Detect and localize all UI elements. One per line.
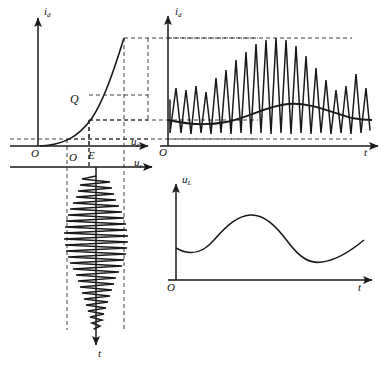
current-x-axis-label: t: [364, 147, 367, 158]
output-x-axis-label: t: [358, 282, 361, 293]
current-origin-label: O: [159, 147, 167, 158]
output-origin-label: O: [167, 282, 175, 293]
input-time-axis-label: t: [98, 348, 101, 359]
transfer-projection-lines: [10, 38, 258, 330]
output-y-axis-label: uL: [182, 174, 191, 185]
transfer-y-axis-label: id: [44, 6, 51, 17]
output-axes: [168, 184, 372, 280]
current-y-axis-label: id: [175, 6, 182, 17]
quiescent-point-label: Q: [70, 93, 79, 105]
input-am-waveform: [64, 176, 128, 329]
transfer-second-origin-label: O: [69, 152, 77, 163]
output-waveform: [176, 215, 364, 262]
transfer-origin-label: O: [31, 148, 39, 159]
transfer-x-axis-label-lower: uc: [134, 157, 143, 168]
transfer-bias-label: E: [88, 150, 95, 161]
figure-vector-layer: [0, 0, 390, 368]
transfer-curve: [40, 38, 124, 146]
current-axes: [160, 16, 378, 146]
transfer-x-axis-label: uc: [131, 136, 140, 147]
current-rectified-pulses: [170, 38, 370, 134]
figure-canvas: id O O E uc uc Q id O t t uL O t: [0, 0, 390, 368]
